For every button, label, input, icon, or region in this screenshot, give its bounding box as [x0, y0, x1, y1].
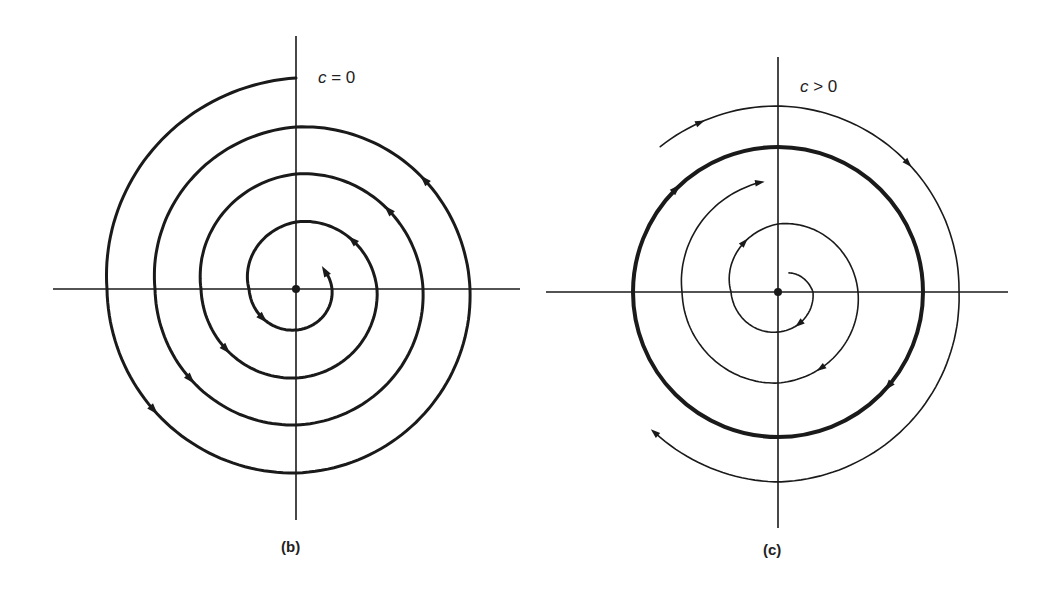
condition-relation-c: > 0	[809, 77, 838, 96]
inward-spiral	[107, 78, 471, 473]
panel-caption-c: (c)	[763, 541, 781, 558]
panel-b	[53, 36, 520, 520]
panel-caption-b: (b)	[281, 538, 300, 555]
inner-spiral-outward	[681, 183, 858, 383]
condition-variable-b: c	[318, 68, 327, 87]
arrowhead-icon	[817, 363, 827, 371]
arrowhead-icon	[755, 180, 765, 187]
phase-portrait-figure	[0, 0, 1061, 591]
origin-point-c	[774, 288, 782, 296]
outer-spiral-inward	[655, 106, 959, 482]
condition-variable-c: c	[800, 77, 809, 96]
origin-point-b	[292, 285, 300, 293]
condition-label-b: c = 0	[318, 68, 355, 88]
spiral-curves-b	[107, 78, 471, 473]
condition-relation-b: = 0	[327, 68, 356, 87]
condition-label-c: c > 0	[800, 77, 837, 97]
arrowhead-icon	[694, 120, 704, 127]
panel-c	[546, 57, 1008, 528]
spiral-curves-c	[633, 106, 959, 482]
